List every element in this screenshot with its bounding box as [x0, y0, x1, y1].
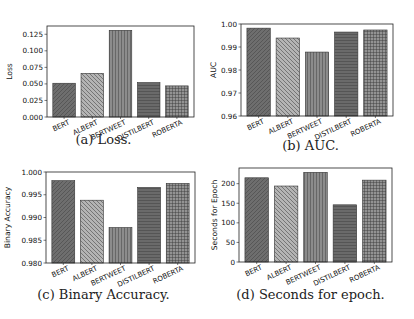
chart-panel-seconds-per-epoch: BERTALBERTBERTWEETDISTILBERTROBERTA05010… [207, 160, 414, 319]
y-tick-label: 0 [230, 258, 235, 267]
y-tick-label: 0.97 [221, 89, 237, 98]
y-tick-label: 1.000 [21, 168, 42, 177]
bars [52, 181, 189, 263]
y-tick-label: 0.025 [22, 96, 43, 105]
y-tick-label: 0.985 [21, 236, 42, 245]
y-tick-label: 0.100 [22, 46, 43, 55]
x-tick-label: ROBERTA [349, 117, 382, 138]
y-tick-label: 0.96 [221, 112, 237, 121]
y-axis-label: Seconds for Epoch [210, 180, 219, 251]
bar-bertweet [305, 52, 328, 116]
bar-roberta [363, 180, 387, 262]
y-tick-label: 0.99 [221, 43, 237, 52]
bar-bert [52, 181, 75, 263]
bar-distilbert [137, 83, 160, 117]
x-tick-label: ROBERTA [152, 264, 185, 285]
auc-bar-chart: BERTALBERTBERTWEETDISTILBERTROBERTA0.960… [207, 0, 414, 160]
bar-bert [53, 83, 76, 117]
y-tick-label: 0.050 [22, 79, 43, 88]
y-tick-label: 200 [221, 179, 235, 188]
chart-panel-binary-accuracy: BERTALBERTBERTWEETDISTILBERTROBERTA0.980… [0, 160, 207, 319]
bar-distilbert [335, 32, 358, 116]
bar-albert [274, 186, 298, 262]
y-tick-label: 50 [226, 238, 236, 247]
bar-roberta [364, 30, 387, 116]
y-tick-label: 150 [221, 199, 235, 208]
y-axis-label: Loss [5, 63, 14, 80]
bar-roberta [166, 86, 189, 117]
bars [247, 28, 387, 116]
y-tick-label: 0.000 [22, 113, 43, 122]
bars [53, 30, 188, 117]
caption-seconds-per-epoch: (d) Seconds for epoch. [207, 287, 414, 302]
bar-distilbert [333, 205, 357, 262]
y-tick-label: 100 [221, 218, 235, 227]
y-tick-label: 0.980 [21, 259, 42, 268]
y-tick-label: 0.075 [22, 63, 43, 72]
caption-binary-accuracy: (c) Binary Accuracy. [0, 287, 207, 302]
bar-albert [81, 73, 104, 117]
y-tick-label: 0.995 [21, 190, 42, 199]
bar-bert [247, 28, 270, 116]
bar-bertweet [109, 228, 132, 263]
bars [245, 172, 386, 262]
y-tick-label: 0.98 [221, 66, 237, 75]
y-tick-label: 0.990 [21, 213, 42, 222]
bar-distilbert [138, 187, 161, 263]
chart-panel-auc: BERTALBERTBERTWEETDISTILBERTROBERTA0.960… [207, 0, 414, 160]
y-tick-label: 1.00 [221, 20, 237, 29]
x-tick-label: BERT [51, 264, 71, 279]
chart-panel-loss: BERTALBERTBERTWEETDISTILBERTROBERTA0.000… [0, 0, 207, 160]
bar-bert [245, 178, 269, 262]
bar-albert [80, 200, 103, 263]
bar-bertweet [109, 30, 132, 117]
x-tick-label: BERT [244, 263, 264, 278]
y-axis-label: AUC [209, 62, 218, 78]
bar-roberta [166, 183, 189, 263]
bar-bertweet [304, 172, 328, 262]
y-tick-label: 0.125 [22, 30, 43, 39]
y-axis-label: Binary Accuracy [3, 186, 12, 248]
x-tick-label: BERT [246, 117, 266, 132]
x-tick-label: ROBERTA [348, 263, 381, 284]
caption-loss: (a) Loss. [0, 132, 207, 147]
caption-auc: (b) AUC. [207, 138, 414, 153]
bar-albert [276, 38, 299, 116]
